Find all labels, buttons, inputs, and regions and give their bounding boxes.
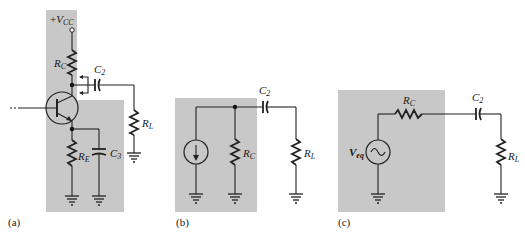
- panel-caption-b: (b): [176, 216, 189, 229]
- circuit-figure: +VCC RC C2 RL: [0, 0, 525, 239]
- rl-label: RL: [141, 117, 154, 131]
- ground-icon: [494, 194, 508, 203]
- panel-a: +VCC RC C2 RL: [8, 10, 154, 229]
- panel-caption-c: (c): [338, 216, 351, 229]
- vcc-terminal-icon: [70, 28, 74, 32]
- resistor-rl-icon: [130, 110, 138, 135]
- ground-icon: [127, 153, 141, 162]
- resistor-rl-icon: [497, 139, 505, 165]
- rl-label: RL: [303, 147, 316, 161]
- rl-label: RL: [507, 150, 520, 164]
- panel-b: RC C2 RL (b): [175, 84, 316, 229]
- ground-icon: [289, 194, 303, 203]
- c2-label: C2: [94, 63, 105, 77]
- arrow-left-icon: [79, 91, 83, 95]
- arrow-left-icon: [79, 75, 83, 79]
- resistor-rl-icon: [292, 139, 300, 165]
- panel-c: RC Veq C2 RL (c): [338, 90, 520, 229]
- panel-caption-a: (a): [8, 216, 21, 229]
- c2-label: C2: [472, 91, 483, 105]
- c2-label: C2: [259, 84, 270, 98]
